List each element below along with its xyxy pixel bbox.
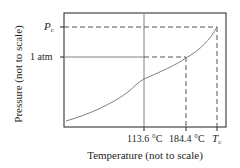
x-tick-label-tc: Tc bbox=[212, 133, 221, 146]
x-tick-label-184: 184.4 °C bbox=[169, 134, 205, 144]
x-axis-label: Temperature (not to scale) bbox=[87, 150, 203, 161]
y-axis-label: Pressure (not to scale) bbox=[13, 25, 24, 122]
y-tick-label-pc: Pc bbox=[44, 21, 54, 34]
y-tick-label-1atm: 1 atm bbox=[30, 52, 53, 62]
x-tick-label-113: 113.6 °C bbox=[127, 134, 162, 144]
vapor-pressure-curve bbox=[66, 27, 217, 121]
plot-frame bbox=[64, 13, 226, 127]
